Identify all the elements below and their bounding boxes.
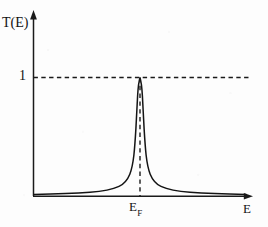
y-tick-label-one: 1 xyxy=(19,69,26,83)
x-tick-label-fermi-energy: EF xyxy=(129,200,142,217)
y-axis xyxy=(30,10,37,196)
y-axis-label: T(E) xyxy=(2,16,28,30)
fermi-subscript-text: F xyxy=(137,208,142,218)
fermi-base-text: E xyxy=(129,199,137,214)
transmission-plot-figure: T(E) 1 EF E xyxy=(0,0,268,227)
y-axis-arrow-icon xyxy=(30,10,37,20)
x-axis-label: E xyxy=(243,202,251,215)
plot-canvas xyxy=(0,0,268,227)
